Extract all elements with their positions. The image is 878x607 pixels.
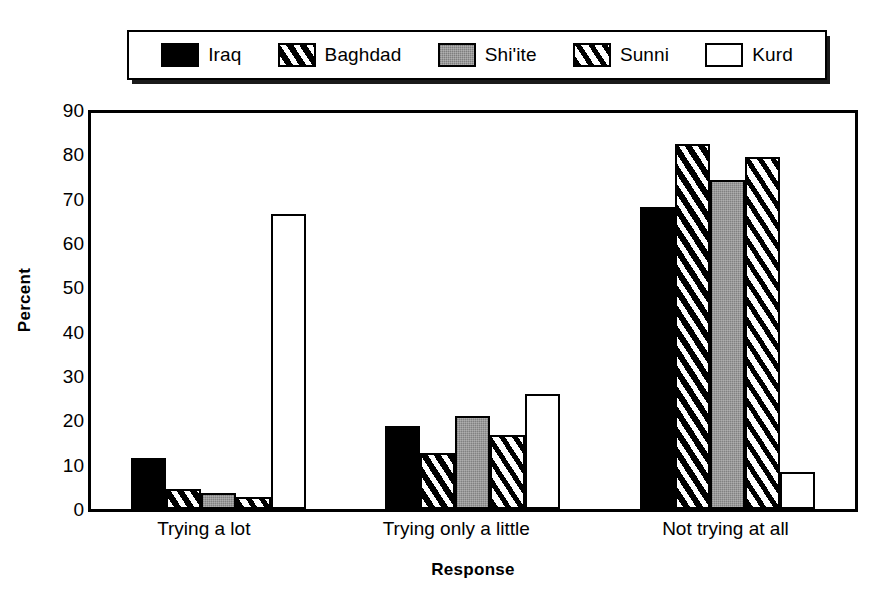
legend-label: Kurd [752, 44, 793, 66]
bar-shiite-1 [455, 416, 490, 509]
bar-iraq-0 [131, 458, 166, 509]
y-axis-title: Percent [15, 250, 35, 350]
bar-iraq-2 [640, 207, 675, 509]
legend-label: Baghdad [325, 44, 402, 66]
y-axis-tick-labels: 9080706050403020100 [44, 100, 84, 522]
diagonal-hatch-on-white-icon [573, 43, 611, 67]
x-axis-category-label: Trying only a little [383, 518, 530, 540]
bar-baghdad-1 [420, 453, 455, 509]
chart-legend: Iraq Baghdad Shi'ite Sunni Kurd [127, 30, 827, 80]
bar-baghdad-0 [166, 489, 201, 509]
x-axis-category-label: Not trying at all [662, 518, 789, 540]
x-axis-tick-labels: Trying a lotTrying only a littleNot tryi… [91, 518, 855, 548]
y-axis-tick-label: 0 [73, 500, 84, 519]
legend-label: Sunni [620, 44, 669, 66]
bar-kurd-0 [271, 214, 306, 509]
legend-entry-iraq: Iraq [161, 43, 241, 67]
legend-label: Iraq [208, 44, 241, 66]
y-axis-tick-label: 30 [63, 367, 84, 386]
solid-black-icon [161, 43, 199, 67]
legend-entry-sunni: Sunni [573, 43, 669, 67]
gray-fill-icon [438, 43, 476, 67]
bar-shiite-2 [710, 180, 745, 509]
bar-baghdad-2 [675, 144, 710, 509]
white-fill-icon [705, 43, 743, 67]
x-axis-title: Response [91, 560, 855, 580]
legend-label: Shi'ite [485, 44, 537, 66]
legend-entry-shiite: Shi'ite [438, 43, 537, 67]
bar-iraq-1 [385, 426, 420, 509]
bar-kurd-1 [525, 394, 560, 509]
diagonal-hatch-on-black-icon [278, 43, 316, 67]
x-axis-category-label: Trying a lot [157, 518, 250, 540]
y-axis-tick-label: 20 [63, 411, 84, 430]
y-axis-tick-label: 70 [63, 189, 84, 208]
y-axis-tick-label: 80 [63, 145, 84, 164]
bar-sunni-1 [490, 435, 525, 509]
bar-sunni-2 [745, 157, 780, 509]
bar-group [385, 110, 560, 509]
bar-kurd-2 [780, 472, 815, 509]
y-axis-tick-label: 40 [63, 322, 84, 341]
y-axis-tick-label: 10 [63, 455, 84, 474]
bar-shiite-0 [201, 493, 236, 509]
y-axis-tick-label: 50 [63, 278, 84, 297]
bar-sunni-0 [236, 497, 271, 509]
plot-area [91, 110, 855, 509]
legend-entry-baghdad: Baghdad [278, 43, 402, 67]
legend-entry-kurd: Kurd [705, 43, 793, 67]
y-axis-tick-label: 60 [63, 234, 84, 253]
bar-group [640, 110, 815, 509]
bar-group [131, 110, 306, 509]
y-axis-tick-label: 90 [63, 101, 84, 120]
